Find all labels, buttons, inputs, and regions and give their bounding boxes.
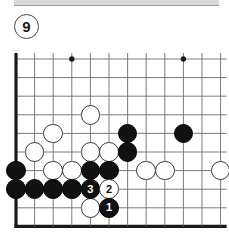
stone-white-c3-r5[interactable] [43, 124, 63, 144]
go-board[interactable]: 321 [0, 40, 229, 240]
stone-white-c12-r7[interactable] [211, 161, 229, 181]
move-number-label: 3 [87, 184, 93, 195]
move-number-label: 2 [106, 184, 112, 195]
previous-figure-edge [14, 0, 219, 6]
stone-white-c4-r7[interactable] [62, 161, 82, 181]
stone-black-c4-r8[interactable] [62, 179, 82, 199]
stone-black-c7-r6[interactable] [118, 142, 138, 162]
diagram-number-badge: 9 [14, 14, 39, 39]
move-stone-2-white[interactable]: 2 [99, 179, 119, 199]
figure-page: 9 321 [0, 0, 229, 247]
star-point-1 [69, 56, 74, 61]
page-top-strip [0, 0, 229, 9]
move-stone-1-black[interactable]: 1 [99, 198, 119, 218]
stone-black-c3-r8[interactable] [43, 179, 63, 199]
move-stone-3-black[interactable]: 3 [81, 179, 101, 199]
star-point-2 [181, 56, 186, 61]
stone-white-c5-r9[interactable] [81, 198, 101, 218]
stone-black-c6-r7[interactable] [99, 161, 119, 181]
stone-white-c2-r6[interactable] [25, 142, 45, 162]
diagram-number-label: 9 [22, 19, 30, 34]
stone-white-c5-r4[interactable] [81, 105, 101, 125]
stone-white-c6-r6[interactable] [99, 142, 119, 162]
stone-black-c1-r8[interactable] [6, 179, 26, 199]
stone-white-c5-r6[interactable] [81, 142, 101, 162]
move-number-label: 1 [106, 202, 112, 213]
stone-black-c1-r7[interactable] [6, 161, 26, 181]
stone-white-c9-r7[interactable] [155, 161, 175, 181]
